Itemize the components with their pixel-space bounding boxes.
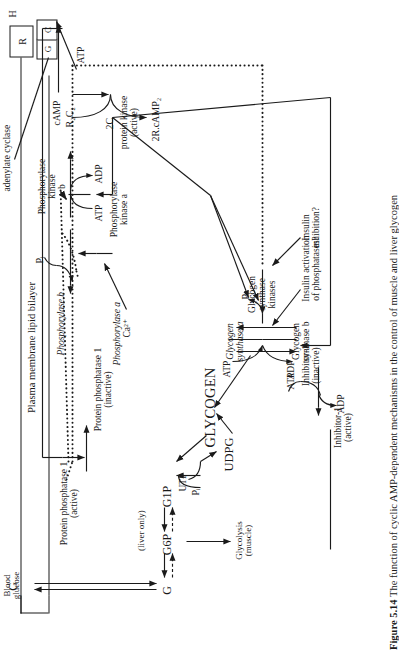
- glucose-label: G: [160, 579, 172, 601]
- two-c-label: 2C: [104, 117, 114, 129]
- phosphorylase-kinase-atp-label: ATP: [94, 204, 104, 221]
- receptor-c-label: C: [42, 27, 52, 33]
- phosphorylase-a-label: Phosphorylase a: [112, 301, 122, 365]
- g6p-label: G6P: [160, 527, 172, 561]
- insulin-activation-label: Insulin activation of phosphatases?: [300, 213, 320, 323]
- liver-only-label: (liver only): [136, 491, 145, 569]
- camp-atp-label: ATP: [76, 46, 86, 63]
- g1p-label: G1P: [160, 479, 172, 513]
- hormone-label: H: [7, 10, 17, 17]
- inhibitor-adp-label: ADP: [336, 394, 346, 413]
- figure-caption-label: Figure 5.14: [388, 599, 399, 650]
- glucose-top-label: G: [6, 571, 18, 601]
- inhibitor-1-inactive-label: Inhibitor-1 (inactive): [300, 329, 320, 401]
- phosphorylase-kinase-a-label: Phosphorylase kinase a: [108, 169, 128, 249]
- camp-label: cAMP: [52, 100, 62, 125]
- receptor-r-box: R: [9, 25, 33, 57]
- inhibitor-atp-label: ATP: [286, 372, 296, 389]
- receptor-g-box: G: [36, 38, 57, 59]
- utp-label: UTP: [178, 473, 188, 491]
- phosphorylase-kinase-adp-label: ADP: [94, 164, 104, 183]
- membrane-label: Plasma membrane lipid bilayer: [26, 232, 37, 462]
- figure-caption: Figure 5.14 The function of cyclic AMP-d…: [388, 195, 399, 650]
- synthase-atp-label: ATP: [222, 360, 232, 377]
- protein-phosphatase-active-label: Protein phosphatase 1 (active): [58, 449, 78, 557]
- receptor-r-label: R: [16, 38, 27, 45]
- glycolysis-label: Glycolysis (muscle): [234, 505, 253, 575]
- protein-phosphatase-inactive-label: Protein phosphatase 1 (inactive): [92, 335, 112, 443]
- calcium-label: Ca²⁺: [122, 319, 132, 337]
- receptor-c-box: C: [36, 19, 57, 40]
- r-camp2-label: 2R.cAMP₂: [150, 97, 160, 141]
- udpg-label: UDPG: [222, 437, 235, 471]
- protein-kinase-label: protein kinase (active): [118, 81, 138, 163]
- membrane-outer-line: [20, 28, 21, 613]
- membrane-rail-cap-bottom: [48, 595, 49, 613]
- adenylate-cyclase-label: adenylate cyclase: [2, 124, 12, 191]
- membrane-left-cap: [20, 612, 48, 613]
- phosphorylase-pi-label: Pᵢ: [34, 256, 44, 263]
- r2c2-label: R₂C₂: [64, 107, 74, 127]
- glycogen-pi-label: Pᵢ: [190, 488, 200, 495]
- figure-caption-text: The function of cyclic AMP-dependent mec…: [388, 195, 399, 597]
- synthase-pi-label: Pᵢ: [240, 292, 250, 299]
- phosphorylase-b-label: Phosphorylase b: [56, 291, 66, 355]
- phosphorylase-kinase-b-label: Phosphorylase kinase b: [36, 151, 66, 221]
- receptor-g-label: G: [42, 45, 52, 52]
- glycogen-label: GLYCOGEN: [202, 367, 217, 447]
